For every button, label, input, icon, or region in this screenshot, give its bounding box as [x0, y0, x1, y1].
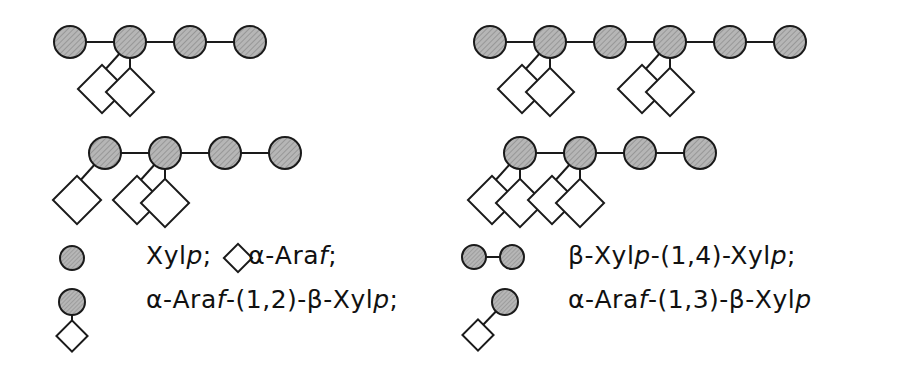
xylopyranose-circle-symbol: [54, 26, 86, 58]
arabinofuranose-diamond-symbol: [53, 176, 101, 224]
xylopyranose-circle-symbol: [500, 245, 524, 269]
xylopyranose-circle-symbol: [462, 245, 486, 269]
xylopyranose-circle-symbol: [624, 137, 656, 169]
legend-text-italic: f: [217, 285, 226, 314]
legend-text-segment: α-Ara: [568, 285, 639, 314]
xylopyranose-circle-symbol: [149, 137, 181, 169]
legend-text-italic: p: [771, 241, 787, 270]
xylopyranose-circle-symbol: [684, 137, 716, 169]
arabinofuranose-diamond-symbol: [462, 319, 493, 350]
legend-icon-circle-over-diamond: [56, 289, 87, 352]
legend-text-segment: -(1,2)-β-Xyl: [226, 285, 373, 314]
figure-root: Xylp; ◇ α-Araf; α-Araf-(1,2)-β-Xylp; β-X…: [0, 0, 914, 381]
xylopyranose-circle-symbol: [234, 26, 266, 58]
structure-diagram-canvas: [0, 0, 914, 381]
legend-text-italic: p: [186, 241, 202, 270]
legend-icon-diagonal-diamond-circle: [462, 289, 518, 351]
xylopyranose-circle-symbol: [209, 137, 241, 169]
xylopyranose-circle-symbol: [564, 137, 596, 169]
legend-text-segment: -(1,3)-β-Xyl: [648, 285, 795, 314]
legend-text-segment: -(1,4)-Xyl: [651, 241, 771, 270]
xylopyranose-circle-symbol: [89, 137, 121, 169]
xylopyranose-circle-symbol: [269, 137, 301, 169]
xylopyranose-circle-symbol: [774, 26, 806, 58]
legend-icon-xylp-circle: [60, 246, 84, 270]
legend-text-segment: ;: [203, 241, 220, 270]
legend-text-segment: β-Xyl: [568, 241, 634, 270]
xylopyranose-circle-symbol: [594, 26, 626, 58]
xylopyranose-circle-symbol: [534, 26, 566, 58]
legend-icon-two-linked-circles: [462, 245, 524, 269]
xylopyranose-circle-symbol: [714, 26, 746, 58]
legend-text-italic: p: [634, 241, 650, 270]
arabinofuranose-diamond-symbol: [56, 320, 87, 351]
legend-label-araf-1-3-xylp: α-Araf-(1,3)-β-Xylp: [568, 287, 812, 312]
legend-text-segment: ;: [787, 241, 796, 270]
structure-bottom-right: [468, 137, 716, 227]
xylopyranose-circle-symbol: [474, 26, 506, 58]
xylopyranose-circle-symbol: [60, 246, 84, 270]
structure-top-right: [474, 26, 806, 116]
legend-label-xylp-araf: Xylp; ◇ α-Araf;: [146, 243, 337, 268]
legend-text-segment: ;: [390, 285, 399, 314]
legend-text-segment: α-Ara: [240, 241, 319, 270]
xylopyranose-circle-symbol: [492, 289, 518, 315]
xylopyranose-circle-symbol: [654, 26, 686, 58]
xylopyranose-circle-symbol: [59, 289, 85, 315]
xylopyranose-circle-symbol: [174, 26, 206, 58]
legend-text-italic: p: [373, 285, 389, 314]
legend-text-segment: α-Ara: [146, 285, 217, 314]
legend-label-araf-1-2-xylp: α-Araf-(1,2)-β-Xylp;: [146, 287, 398, 312]
legend-text-italic: p: [795, 285, 811, 314]
structure-top-left: [54, 26, 266, 116]
legend-text-segment: Xyl: [146, 241, 186, 270]
legend-text-italic: f: [319, 241, 328, 270]
legend-text-italic: f: [639, 285, 648, 314]
legend-text-segment: ;: [328, 241, 337, 270]
structure-bottom-left: [53, 137, 301, 227]
xylopyranose-circle-symbol: [114, 26, 146, 58]
xylopyranose-circle-symbol: [504, 137, 536, 169]
legend-label-xylp-1-4-xylp: β-Xylp-(1,4)-Xylp;: [568, 243, 796, 268]
